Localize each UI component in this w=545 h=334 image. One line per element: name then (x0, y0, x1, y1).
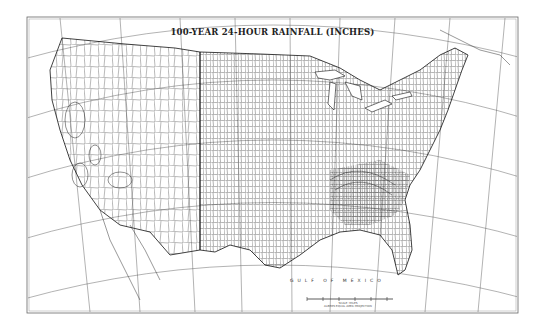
rainfall-map (0, 0, 545, 334)
map-title: 100-YEAR 24-HOUR RAINFALL (INCHES) (0, 27, 545, 37)
central-eastern-us (200, 48, 468, 275)
western-us (50, 38, 200, 255)
scale-caption: SCALE: MILES ALBERS EQUAL AREA PROJECTIO… (318, 302, 378, 308)
us-landmass (50, 30, 510, 300)
gulf-of-mexico-label: GULF OF MEXICO (290, 278, 385, 283)
